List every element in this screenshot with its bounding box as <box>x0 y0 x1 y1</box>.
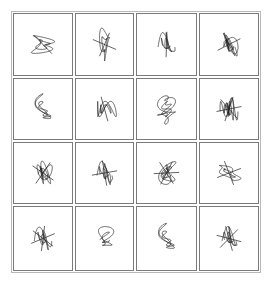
figure-r3c2 <box>92 160 117 185</box>
figure-r2c1 <box>35 94 51 119</box>
figure-curve <box>99 227 114 246</box>
figure-r4c4 <box>217 226 242 251</box>
figure-r4c2 <box>99 227 114 246</box>
figure-r2c2 <box>98 97 117 122</box>
figure-r1c4 <box>218 33 241 56</box>
figure-r3c1 <box>33 161 54 184</box>
figure-r1c3 <box>158 32 175 57</box>
figure-inner-loop <box>101 105 111 113</box>
figure-r3c4 <box>217 161 241 185</box>
figure-grid <box>0 0 270 285</box>
figure-r4c1 <box>31 226 55 251</box>
figure-curve <box>223 33 238 56</box>
figure-r3c3 <box>154 162 179 185</box>
figure-r4c3 <box>159 223 175 248</box>
figure-curve <box>219 165 241 180</box>
figure-r2c3 <box>158 96 176 124</box>
figure-spikes <box>217 161 241 185</box>
figure-r1c2 <box>93 28 116 61</box>
figure-r1c1 <box>32 35 55 53</box>
figure-curve <box>37 161 52 184</box>
cell-frame <box>76 207 134 271</box>
figure-curve <box>158 96 176 124</box>
figure-r2c4 <box>217 97 242 121</box>
